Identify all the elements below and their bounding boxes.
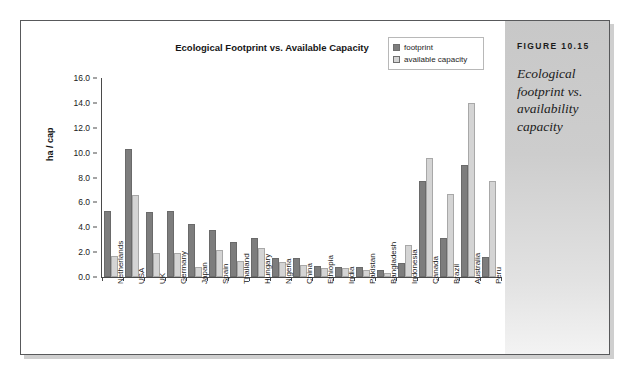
bar-footprint <box>461 165 468 277</box>
x-axis-label: Pakistan <box>368 253 377 284</box>
x-axis-label: Thailand <box>242 253 251 284</box>
figure-number: FIGURE 10.15 <box>517 41 599 51</box>
bar-footprint <box>356 267 363 277</box>
legend-item-available-capacity: available capacity <box>393 53 479 65</box>
bar-footprint <box>335 267 342 277</box>
legend-label-footprint: footprint <box>404 43 433 52</box>
x-axis-label: Australia <box>473 253 482 284</box>
chart-legend: footprint available capacity <box>388 37 484 70</box>
bar-group <box>165 78 186 277</box>
bar-footprint <box>125 149 132 277</box>
bar-group <box>249 78 270 277</box>
x-axis-label: Japan <box>200 262 209 284</box>
bar-available-capacity <box>132 195 139 277</box>
bar-group <box>270 78 291 277</box>
y-axis-tick-mark <box>93 102 97 103</box>
bar-group <box>333 78 354 277</box>
x-axis-label: UK <box>158 273 167 284</box>
x-axis-label: China <box>305 263 314 284</box>
bar-group <box>354 78 375 277</box>
y-axis-tick-mark <box>93 227 97 228</box>
bar-footprint <box>398 263 405 277</box>
bar-group <box>396 78 417 277</box>
y-axis-tick-label: 14.0 <box>73 98 90 108</box>
bar-group <box>228 78 249 277</box>
bar-footprint <box>377 270 384 277</box>
x-axis-label: Hungary <box>263 254 272 284</box>
bar-group <box>207 78 228 277</box>
caption-panel: FIGURE 10.15 Ecological footprint vs. av… <box>505 21 609 354</box>
x-axis-label: Nigeria <box>284 259 293 284</box>
x-axis-label: Indonesia <box>410 249 419 284</box>
x-axis-label: Spain <box>221 264 230 284</box>
plot-bars <box>102 78 501 277</box>
bar-footprint <box>251 238 258 277</box>
bar-group <box>312 78 333 277</box>
bar-group <box>480 78 501 277</box>
y-axis-tick-label: 10.0 <box>73 148 90 158</box>
x-axis-label: Canada <box>431 256 440 284</box>
x-axis-label: Germany <box>179 251 188 284</box>
bar-available-capacity <box>468 103 475 277</box>
bar-group <box>417 78 438 277</box>
bar-footprint <box>419 181 426 277</box>
legend-label-available-capacity: available capacity <box>404 55 467 64</box>
bar-footprint <box>104 211 111 277</box>
bar-group <box>123 78 144 277</box>
x-axis-label: Netherlands <box>116 241 125 284</box>
y-axis-tick-label: 0.0 <box>78 272 90 282</box>
bar-group <box>144 78 165 277</box>
bar-footprint <box>146 212 153 277</box>
bar-footprint <box>272 258 279 277</box>
y-axis-tick-mark <box>93 202 97 203</box>
y-axis-ticks: 0.02.04.06.08.010.012.014.016.0 <box>59 78 97 277</box>
bar-footprint <box>167 211 174 277</box>
chart-area: Ecological Footprint vs. Available Capac… <box>21 21 505 354</box>
x-axis-tick-mark <box>102 277 103 281</box>
bar-footprint <box>209 230 216 277</box>
legend-item-footprint: footprint <box>393 41 479 53</box>
y-axis-tick-mark <box>93 252 97 253</box>
legend-swatch-available-capacity <box>393 56 400 63</box>
y-axis-title: ha / cap <box>45 127 55 161</box>
bar-footprint <box>440 238 447 277</box>
y-axis-tick-mark <box>93 78 97 79</box>
y-axis-tick-mark <box>93 177 97 178</box>
y-axis-tick-label: 6.0 <box>78 197 90 207</box>
x-axis-label: India <box>347 267 356 284</box>
bar-group <box>186 78 207 277</box>
legend-swatch-footprint <box>393 44 400 51</box>
y-axis-tick-mark <box>93 277 97 278</box>
figure-frame: Ecological Footprint vs. Available Capac… <box>20 20 610 355</box>
x-axis-label: USA <box>137 268 146 284</box>
figure-caption: Ecological footprint vs. availability ca… <box>517 65 599 135</box>
chart-title: Ecological Footprint vs. Available Capac… <box>127 42 417 53</box>
bar-footprint <box>482 257 489 277</box>
x-axis-label: Brazil <box>452 264 461 284</box>
y-axis-tick-label: 16.0 <box>73 73 90 83</box>
bar-footprint <box>293 258 300 277</box>
y-axis-tick-label: 4.0 <box>78 222 90 232</box>
bar-group <box>291 78 312 277</box>
bar-footprint <box>230 242 237 277</box>
y-axis-tick-mark <box>93 127 97 128</box>
y-axis-tick-mark <box>93 152 97 153</box>
y-axis-tick-label: 12.0 <box>73 123 90 133</box>
x-axis-label: Ethiopia <box>326 255 335 284</box>
bar-available-capacity <box>489 181 496 277</box>
bar-footprint <box>188 224 195 277</box>
y-axis-tick-label: 2.0 <box>78 247 90 257</box>
y-axis-tick-label: 8.0 <box>78 173 90 183</box>
bar-group <box>438 78 459 277</box>
x-axis-label: Peru <box>494 267 503 284</box>
bar-footprint <box>314 266 321 277</box>
bar-group <box>459 78 480 277</box>
x-axis-label: Bangladesh <box>389 242 398 284</box>
